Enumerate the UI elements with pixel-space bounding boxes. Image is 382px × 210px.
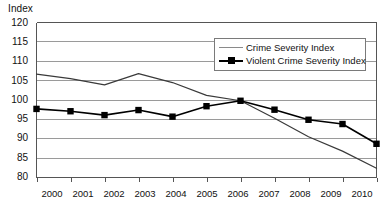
x-axis-ticks: [38, 178, 378, 182]
legend-line-square-marker-icon: [218, 55, 244, 66]
series-violent-crime-severity-index: [33, 98, 379, 147]
legend-item-crime-severity-index: Crime Severity Index: [218, 41, 362, 54]
series-crime-severity-index: [37, 74, 377, 169]
legend-line-icon: [218, 42, 244, 53]
legend-item-violent-crime-severity-index: Violent Crime Severity Index: [218, 54, 362, 67]
legend-label-violent-crime-severity-index: Violent Crime Severity Index: [246, 55, 366, 66]
legend-label-crime-severity-index: Crime Severity Index: [246, 42, 334, 53]
plot-area: [0, 0, 382, 210]
legend: Crime Severity Index Violent Crime Sever…: [214, 38, 366, 71]
crime-severity-index-chart: Index 120 115 110 105 100 95 90 85 80 20…: [0, 0, 382, 210]
